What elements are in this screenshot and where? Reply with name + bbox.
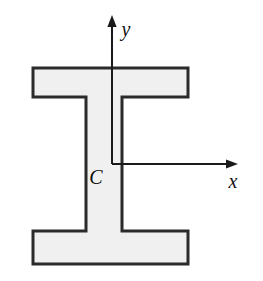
x-axis-label: x bbox=[228, 170, 238, 192]
y-axis-label: y bbox=[120, 18, 131, 41]
cross-section-diagram: y x C bbox=[0, 0, 263, 281]
figure-container: y x C bbox=[0, 0, 263, 281]
centroid-label: C bbox=[89, 166, 103, 188]
